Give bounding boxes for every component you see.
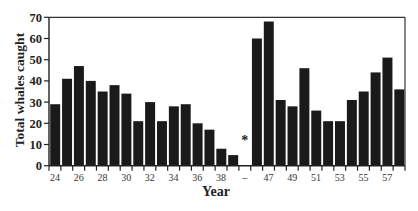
x-tick-label: 30 — [121, 172, 131, 183]
x-tick-label: 51 — [311, 172, 321, 183]
bar-36 — [193, 123, 203, 165]
x-tick-label: 57 — [382, 172, 392, 183]
bar-chart: 010203040506070 2426283032343638–4749515… — [0, 0, 418, 211]
bar-29 — [110, 85, 120, 166]
bar-32 — [145, 102, 155, 166]
x-tick-label: 53 — [335, 172, 345, 183]
y-tick-label: 20 — [30, 117, 43, 131]
x-tick-label: 55 — [358, 172, 368, 183]
bar-30 — [121, 94, 131, 166]
bar-56 — [371, 72, 381, 165]
y-tick-label: 70 — [30, 11, 43, 25]
bar-58 — [394, 89, 404, 165]
asterisk-annotation: * — [241, 133, 248, 148]
bar-52 — [323, 121, 333, 166]
x-axis: 2426283032343638–474951535557 — [49, 166, 405, 183]
x-tick-label: 36 — [192, 172, 202, 183]
bar-51 — [311, 111, 321, 166]
x-tick-label: 38 — [216, 172, 226, 183]
bar-47 — [264, 22, 274, 166]
y-tick-label: 10 — [30, 138, 43, 152]
bar-24 — [50, 104, 60, 165]
x-tick-label: 26 — [74, 172, 84, 183]
bars-group — [50, 22, 404, 166]
bar-27 — [86, 81, 96, 166]
bar-39 — [228, 155, 238, 166]
y-tick-label: 60 — [30, 32, 43, 46]
bar-26 — [74, 66, 84, 166]
x-tick-label: 24 — [50, 172, 60, 183]
x-tick-label: – — [241, 172, 248, 183]
bar-48 — [276, 100, 286, 166]
y-tick-label: 50 — [30, 53, 43, 67]
bar-50 — [299, 68, 309, 166]
bar-57 — [382, 58, 392, 166]
bar-25 — [62, 79, 72, 166]
bar-33 — [157, 121, 167, 166]
annotations: * — [241, 133, 248, 148]
bar-35 — [181, 104, 191, 165]
bar-49 — [288, 106, 298, 165]
bar-31 — [133, 121, 143, 166]
x-tick-label: 49 — [287, 172, 297, 183]
x-tick-label: 32 — [145, 172, 155, 183]
bar-55 — [359, 92, 369, 166]
bar-54 — [347, 100, 357, 166]
bar-46 — [252, 39, 262, 166]
y-tick-label: 30 — [30, 96, 43, 110]
y-tick-label: 0 — [36, 159, 42, 173]
x-tick-label: 47 — [264, 172, 274, 183]
x-tick-label: 28 — [97, 172, 107, 183]
x-axis-label: Year — [202, 184, 230, 200]
bar-37 — [204, 130, 214, 166]
bar-34 — [169, 106, 179, 165]
bar-53 — [335, 121, 345, 166]
bar-38 — [216, 149, 226, 166]
y-axis-label: Total whales caught — [12, 33, 28, 147]
y-axis: 010203040506070 — [30, 11, 50, 173]
y-tick-label: 40 — [30, 74, 43, 88]
x-tick-label: 34 — [169, 172, 179, 183]
bar-28 — [98, 92, 108, 166]
